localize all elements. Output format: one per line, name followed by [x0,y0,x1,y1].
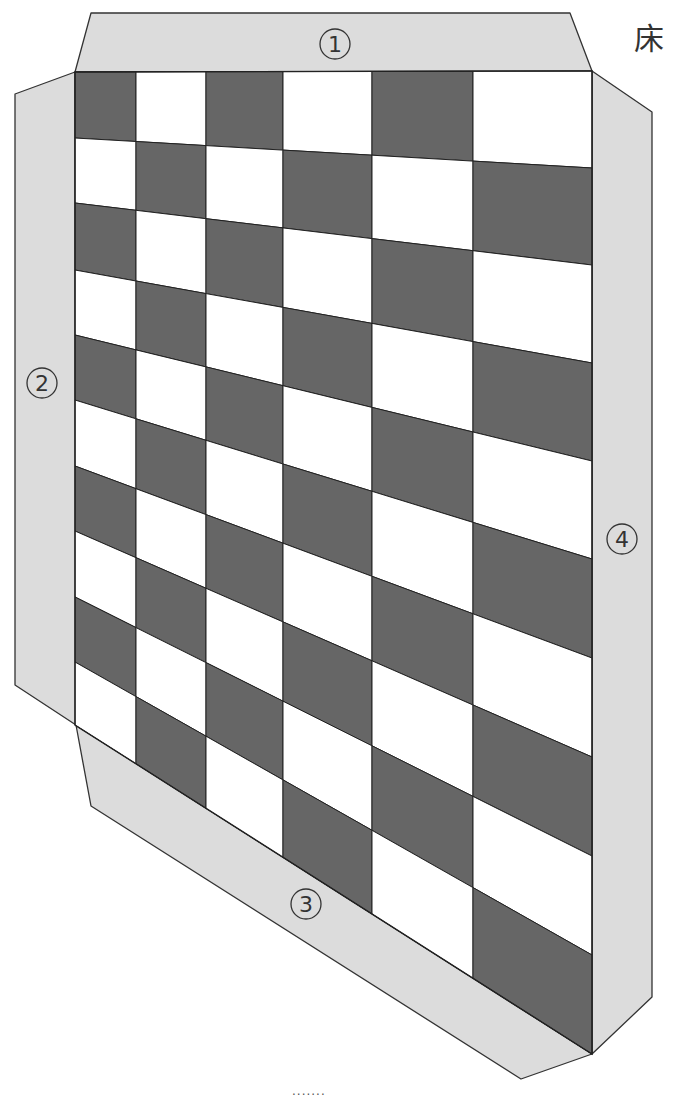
board-cell [473,161,592,265]
board-cell [75,203,136,281]
flap-2 [15,72,76,725]
board-cell [473,71,592,168]
board-cell [136,210,206,293]
board-cell [136,142,206,219]
board-cell [372,71,473,161]
flap-3-label: 3 [299,892,313,917]
board-cell [136,72,206,146]
diagram-title: 床 [634,14,664,58]
floor-net-diagram: 1234 [0,0,678,1105]
flap-4-label: 4 [615,527,629,552]
board-cell [206,219,283,308]
board-cell [283,228,372,324]
board-cell [75,72,136,142]
board-cell [283,71,372,155]
flap-2-label: 2 [35,371,49,396]
board-cell [372,155,473,251]
board-cell [206,146,283,228]
board-cell [206,72,283,151]
footer-dots: ....... [292,1084,326,1098]
board-cell [283,150,372,239]
flap-4 [592,71,652,1054]
board-cell [75,138,136,210]
flap-1-label: 1 [328,32,342,57]
